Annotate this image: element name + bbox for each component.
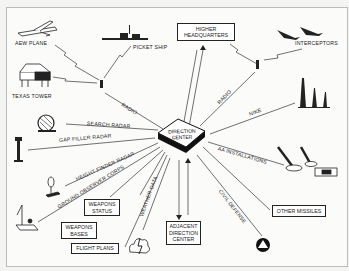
picket-ship-label: PICKET SHIP xyxy=(133,44,167,50)
weapons-bases-box: WEAPONS BASES xyxy=(61,222,97,239)
nike-missiles-icon xyxy=(298,78,330,108)
interceptors-icon xyxy=(277,27,323,40)
civil-defense-icon xyxy=(256,238,270,252)
aa-installations-icon xyxy=(278,147,337,176)
weapons-bases-line2: BASES xyxy=(70,231,88,238)
height-finder-icon xyxy=(46,177,60,197)
higher-headquarters-box: HIGHER HEADQUARTERS xyxy=(177,23,235,41)
weapons-status-line2: STATUS xyxy=(92,208,112,215)
relay-antenna-icon xyxy=(100,60,259,88)
picket-link-line xyxy=(104,46,131,78)
direction-center: DIRECTION CENTER xyxy=(162,127,202,140)
texas-tower-label: TEXAS TOWER xyxy=(12,93,52,99)
flight-plans-box: FLIGHT PLANS xyxy=(71,243,119,254)
interceptors-label: INTERCEPTORS xyxy=(295,40,338,46)
aew-plane-icon xyxy=(18,21,57,36)
gap-filler-tower-icon xyxy=(14,137,23,162)
aew-plane-label: AEW PLANE xyxy=(15,40,47,46)
picket-ship-icon xyxy=(102,25,148,40)
ground-observer-icon xyxy=(16,205,38,230)
adjacent-direction-center-box: ADJACENT DIRECTION CENTER xyxy=(166,221,201,245)
search-radar-icon xyxy=(38,115,56,132)
higher-hq-line2: HEADQUARTERS xyxy=(184,32,228,39)
adjacent-dc-line3: CENTER xyxy=(173,236,195,243)
other-missiles-box: OTHER MISSILES xyxy=(272,205,326,217)
texas-tower-icon xyxy=(20,64,50,87)
weapons-status-box: WEAPONS STATUS xyxy=(84,199,120,216)
aew-link-line xyxy=(55,45,99,80)
texas-link-line xyxy=(53,77,97,83)
weather-cloud-icon xyxy=(130,238,150,254)
